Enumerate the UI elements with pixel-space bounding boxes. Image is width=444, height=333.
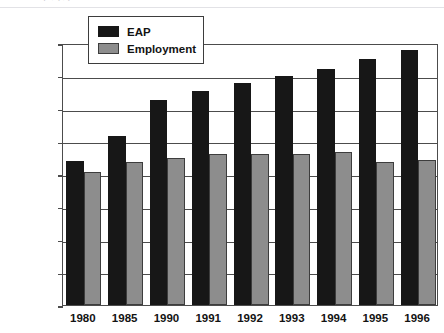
clipped-caption-text: t p , ( , ) (38, 0, 71, 1)
bar-eap-1980[interactable] (66, 161, 84, 305)
bar-employment-1992[interactable] (251, 154, 269, 305)
chart-legend: EAP Employment (88, 16, 204, 64)
bar-employment-1991[interactable] (209, 154, 227, 305)
bar-employment-1994[interactable] (335, 152, 353, 305)
bar-eap-1985[interactable] (108, 136, 126, 305)
x-tick-label-1990: 1990 (154, 312, 180, 324)
bar-group (275, 45, 310, 305)
legend-item-employment[interactable]: Employment (98, 40, 195, 57)
bar-eap-1993[interactable] (275, 76, 293, 305)
x-tick-label-1996: 1996 (404, 312, 430, 324)
bar-employment-1996[interactable] (418, 160, 436, 305)
x-tick-label-1993: 1993 (279, 312, 305, 324)
legend-swatch-eap (98, 26, 119, 37)
bar-eap-1994[interactable] (317, 69, 335, 305)
bar-eap-1992[interactable] (234, 83, 252, 305)
bar-group (150, 45, 185, 305)
bar-employment-1993[interactable] (293, 154, 311, 305)
bar-eap-1995[interactable] (359, 59, 377, 305)
bar-group (234, 45, 269, 305)
bar-employment-1995[interactable] (376, 162, 394, 305)
x-tick-label-1991: 1991 (195, 312, 221, 324)
legend-label-employment: Employment (127, 43, 196, 55)
legend-label-eap: EAP (127, 26, 151, 38)
y-tick-mark (58, 306, 63, 307)
bar-group (192, 45, 227, 305)
bar-employment-1980[interactable] (84, 172, 102, 305)
bar-group (66, 45, 101, 305)
bar-group (108, 45, 143, 305)
bar-employment-1985[interactable] (126, 162, 144, 305)
plot-area (62, 44, 438, 306)
bar-group (317, 45, 352, 305)
bar-eap-1991[interactable] (192, 91, 210, 305)
x-tick-label-1994: 1994 (321, 312, 347, 324)
bar-employment-1990[interactable] (167, 158, 185, 305)
bar-eap-1996[interactable] (401, 50, 419, 305)
x-tick-label-1992: 1992 (237, 312, 263, 324)
x-tick-label-1985: 1985 (112, 312, 138, 324)
bar-group (359, 45, 394, 305)
x-tick-label-1980: 1980 (70, 312, 96, 324)
bars-layer (63, 45, 437, 305)
legend-item-eap[interactable]: EAP (98, 23, 195, 40)
bar-group (401, 45, 436, 305)
top-divider-rule (0, 7, 444, 8)
x-tick-label-1995: 1995 (363, 312, 389, 324)
legend-swatch-employment (98, 43, 119, 54)
bar-chart-figure: t p , ( , ) 05,00010,00015,00020,00025,0… (0, 0, 444, 333)
bar-eap-1990[interactable] (150, 100, 168, 305)
